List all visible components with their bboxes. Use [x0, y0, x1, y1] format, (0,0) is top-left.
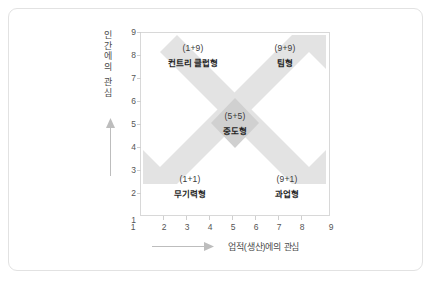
managerial-grid-chart: 9 8 7 6 5 4 3 2 1 1 2 3 4 5 6 7 8 9 (1+9…	[0, 0, 433, 281]
x-tick-6: 6	[249, 222, 263, 232]
x-tick-3: 3	[180, 222, 194, 232]
y-axis-title-char-1: 인	[99, 30, 117, 41]
y-axis-direction-arrow-icon	[106, 118, 115, 176]
y-tick-mark-3	[137, 170, 141, 171]
cell-team-name: 팀형	[246, 57, 324, 69]
x-axis-direction-arrow-icon	[152, 242, 214, 251]
y-tick-mark-7	[137, 78, 141, 79]
y-axis-title-char-6: 심	[99, 88, 117, 99]
y-tick-mark-2	[137, 193, 141, 194]
y-tick-8: 8	[120, 50, 136, 60]
cell-team-code: (9+9)	[246, 42, 324, 54]
y-tick-5: 5	[120, 119, 136, 129]
y-tick-4: 4	[120, 142, 136, 152]
y-tick-mark-6	[137, 101, 141, 102]
cell-country-club: (1+9) 컨트리 클럽형	[150, 42, 236, 70]
y-tick-mark-8	[137, 55, 141, 56]
y-axis-title-char-4: 의	[99, 62, 117, 73]
cell-team: (9+9) 팀형	[246, 42, 324, 70]
y-axis-title-char-3: 에	[99, 51, 117, 62]
y-tick-mark-9	[137, 32, 141, 33]
x-tick-mark-2	[163, 216, 164, 220]
x-tick-7: 7	[272, 222, 286, 232]
x-tick-1: 1	[126, 222, 140, 232]
cell-middle-code: (5+5)	[193, 110, 277, 122]
x-tick-mark-8	[301, 216, 302, 220]
cell-middle-name: 중도형	[193, 125, 277, 137]
y-tick-2: 2	[120, 188, 136, 198]
cell-country-club-name: 컨트리 클럽형	[150, 57, 236, 69]
y-tick-7: 7	[120, 73, 136, 83]
y-tick-mark-4	[137, 147, 141, 148]
cell-task: (9+1) 과업형	[250, 173, 324, 201]
x-tick-mark-6	[255, 216, 256, 220]
x-tick-2: 2	[157, 222, 171, 232]
cell-country-club-code: (1+9)	[150, 42, 236, 54]
x-tick-mark-5	[232, 216, 233, 220]
y-axis-title: 인 간 에 의 관 심	[99, 30, 117, 99]
x-tick-5: 5	[226, 222, 240, 232]
y-axis-title-char-5: 관	[99, 77, 117, 88]
y-tick-3: 3	[120, 165, 136, 175]
x-tick-mark-3	[186, 216, 187, 220]
x-tick-mark-7	[278, 216, 279, 220]
cell-impoverished: (1+1) 무기력형	[150, 173, 230, 201]
cell-impoverished-code: (1+1)	[150, 173, 230, 185]
x-axis-title: 업적(생산)에의 관심	[228, 240, 299, 253]
y-tick-9: 9	[120, 27, 136, 37]
x-tick-8: 8	[295, 222, 309, 232]
y-axis-title-char-2: 간	[99, 41, 117, 52]
cell-task-code: (9+1)	[250, 173, 324, 185]
cell-impoverished-name: 무기력형	[150, 188, 230, 200]
x-tick-mark-4	[209, 216, 210, 220]
x-tick-4: 4	[203, 222, 217, 232]
y-tick-mark-5	[137, 124, 141, 125]
cell-middle-of-the-road: (5+5) 중도형	[193, 110, 277, 138]
y-tick-6: 6	[120, 96, 136, 106]
cell-task-name: 과업형	[250, 188, 324, 200]
x-tick-9: 9	[324, 222, 338, 232]
